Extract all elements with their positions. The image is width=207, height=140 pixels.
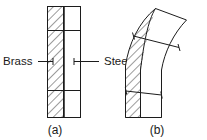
caption-b: (b) [150,123,165,137]
panel-b-bent-strip: (b) [125,9,186,138]
panel-a-straight-strip: Brass Steel (a) [3,6,130,137]
bimetallic-strip-figure: Brass Steel (a) [0,0,207,140]
brass-label: Brass [3,55,33,67]
caption-a: (a) [48,123,63,137]
figure-canvas: Brass Steel (a) [0,0,207,140]
